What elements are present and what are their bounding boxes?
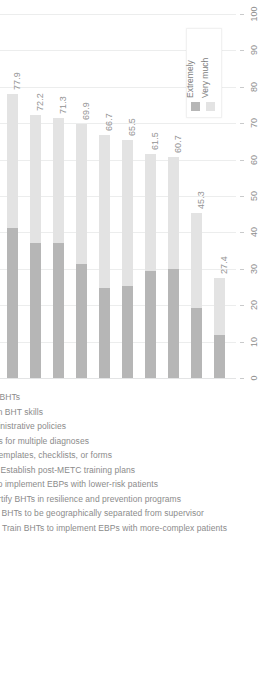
bar-value-label: 66.7 (104, 113, 114, 131)
bar-segment-extremely[interactable] (7, 228, 18, 378)
tick-mark (240, 342, 244, 343)
tick-label: 60 (249, 155, 259, 165)
bar-segment-very-much[interactable] (145, 154, 156, 271)
tick-mark (240, 50, 244, 51)
bar-segment-very-much[interactable] (214, 278, 225, 334)
tick-label: 70 (249, 118, 259, 128)
bar-value-label: 45.3 (196, 191, 206, 209)
bar-segment-very-much[interactable] (7, 94, 18, 227)
category-label: Establish post-METC training plans (1, 465, 135, 475)
bar-column[interactable] (191, 213, 202, 378)
category-label: Educate MHPs on BHT skills (0, 407, 43, 417)
legend-swatch (191, 102, 200, 111)
bar-segment-extremely[interactable] (53, 243, 64, 378)
tick-mark (240, 378, 244, 379)
category-label: Certify BHTs in resilience and preventio… (0, 494, 181, 504)
tick-mark (240, 196, 244, 197)
legend-label: Very much (200, 58, 210, 98)
legend-label: Extremely (185, 60, 195, 98)
gridline-0 (0, 378, 236, 379)
bar-column[interactable] (7, 94, 18, 378)
category-label: Train BHTs to implement EBPs with lower-… (0, 479, 158, 489)
legend-swatch (206, 102, 215, 111)
tick-label: 90 (249, 45, 259, 55)
bar-value-label: 71.3 (58, 97, 68, 115)
bar-value-label: 72.2 (35, 93, 45, 111)
tick-label: 80 (249, 82, 259, 92)
bar-column[interactable] (122, 140, 133, 378)
category-label: Establish administrative policies (0, 421, 66, 431)
bar-segment-very-much[interactable] (53, 118, 64, 243)
category-label: Train BHTs on treatments for multiple di… (0, 436, 89, 446)
bar-segment-extremely[interactable] (214, 335, 225, 378)
bar-segment-very-much[interactable] (168, 157, 179, 269)
tick-mark (240, 14, 244, 15)
bar-value-label: 60.7 (173, 135, 183, 153)
gridline-100 (0, 14, 236, 15)
chart-legend: ExtremelyVery much (186, 28, 222, 118)
bar-value-label: 65.5 (127, 118, 137, 136)
category-label: Professional development for BHTs (0, 392, 20, 402)
bar-segment-extremely[interactable] (168, 269, 179, 378)
tick-label: 30 (249, 264, 259, 274)
category-label: Provide BHTs templates, checklists, or f… (0, 450, 112, 460)
tick-mark (240, 160, 244, 161)
bar-column[interactable] (99, 135, 110, 378)
bar-segment-very-much[interactable] (76, 124, 87, 265)
bar-column[interactable] (30, 115, 41, 378)
tick-mark (240, 87, 244, 88)
bar-value-label: 61.5 (150, 132, 160, 150)
bar-segment-extremely[interactable] (76, 264, 87, 378)
bar-value-label: 27.4 (219, 256, 229, 274)
category-label: Prepare BHTs to be geographically separa… (0, 508, 204, 518)
bar-column[interactable] (145, 154, 156, 378)
value-axis: 0102030405060708090100 (240, 0, 276, 685)
bar-segment-extremely[interactable] (99, 288, 110, 378)
bar-segment-very-much[interactable] (191, 213, 202, 308)
tick-mark (240, 305, 244, 306)
bar-column[interactable] (214, 278, 225, 378)
bar-segment-extremely[interactable] (145, 271, 156, 378)
tick-label: 20 (249, 300, 259, 310)
bar-column[interactable] (53, 118, 64, 378)
bar-segment-extremely[interactable] (30, 243, 41, 378)
tick-label: 50 (249, 191, 259, 201)
bar-segment-very-much[interactable] (122, 140, 133, 286)
tick-label: 100 (249, 6, 259, 21)
tick-mark (240, 123, 244, 124)
category-axis: Professional development for BHTsEducate… (0, 382, 240, 682)
bar-value-label: 69.9 (81, 102, 91, 120)
tick-mark (240, 269, 244, 270)
bar-segment-extremely[interactable] (122, 286, 133, 378)
tick-label: 40 (249, 227, 259, 237)
bar-column[interactable] (168, 157, 179, 378)
tick-label: 10 (249, 337, 259, 347)
bar-segment-very-much[interactable] (99, 135, 110, 288)
bar-segment-very-much[interactable] (30, 115, 41, 242)
stacked-bar-chart: 77.972.271.369.966.765.561.560.745.327.4… (0, 0, 276, 685)
tick-label: 0 (249, 375, 259, 380)
bar-column[interactable] (76, 124, 87, 378)
tick-mark (240, 232, 244, 233)
bar-segment-extremely[interactable] (191, 308, 202, 378)
category-label: Train BHTs to implement EBPs with more-c… (2, 523, 227, 533)
bar-value-label: 77.9 (12, 73, 22, 91)
